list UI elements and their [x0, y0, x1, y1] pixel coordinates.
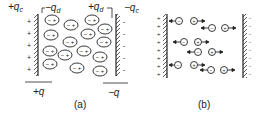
svg-text:+: +	[193, 62, 196, 68]
right-minus-charges: -----	[123, 18, 126, 73]
svg-text:− +: − +	[67, 22, 76, 28]
svg-text:-: -	[123, 42, 126, 49]
capacitor-diagram: +++++ ----- +qc −qd +qd −qc	[0, 0, 270, 116]
svg-text:+: +	[211, 49, 214, 55]
svg-text:-: -	[249, 71, 251, 77]
svg-text:+: +	[157, 47, 161, 53]
svg-text:-: -	[249, 39, 251, 45]
svg-text:-: -	[249, 15, 251, 21]
svg-text:+: +	[157, 63, 161, 69]
svg-text:− +: − +	[96, 54, 105, 60]
svg-text:+: +	[27, 66, 31, 73]
svg-text:+: +	[27, 18, 31, 25]
svg-text:+: +	[224, 25, 227, 31]
caption-a: (a)	[74, 99, 86, 110]
svg-text:+: +	[193, 18, 196, 24]
svg-text:−: −	[177, 62, 180, 68]
svg-text:+: +	[157, 39, 161, 45]
svg-text:+: +	[157, 15, 161, 21]
figure-b: ++++++++ -------- −+ −+ −+ −+ −+ −+	[157, 14, 251, 110]
svg-text:-: -	[123, 54, 126, 61]
label-minus-q: −q	[108, 87, 120, 98]
svg-text:− +: − +	[47, 32, 56, 38]
svg-text:− +: − +	[46, 61, 55, 67]
svg-text:-: -	[249, 55, 251, 61]
svg-text:-: -	[123, 18, 126, 25]
pointer-plus-qd	[107, 8, 112, 18]
svg-text:− +: − +	[96, 68, 105, 74]
label-minus-qd: −qd	[45, 2, 61, 14]
svg-text:-: -	[249, 31, 251, 37]
svg-text:−: −	[210, 67, 213, 73]
svg-text:− +: − +	[66, 39, 75, 45]
caption-b: (b)	[198, 99, 210, 110]
figure-a: +++++ ----- +qc −qd +qd −qc	[8, 1, 139, 110]
svg-text:− +: − +	[100, 39, 109, 45]
label-plus-q: +q	[33, 86, 45, 97]
svg-text:+: +	[223, 67, 226, 73]
svg-text:-: -	[249, 47, 251, 53]
b-left-plus: ++++++++	[157, 15, 161, 77]
svg-text:+: +	[157, 23, 161, 29]
svg-text:−: −	[197, 49, 200, 55]
svg-text:− +: − +	[84, 31, 93, 37]
svg-text:−: −	[178, 18, 181, 24]
svg-text:−: −	[183, 39, 186, 45]
svg-text:+: +	[157, 55, 161, 61]
svg-text:+: +	[27, 42, 31, 49]
left-plus-charges: +++++	[27, 18, 31, 73]
svg-text:− +: − +	[61, 52, 70, 58]
svg-text:-: -	[123, 30, 126, 37]
svg-text:-: -	[123, 66, 126, 73]
svg-text:− +: − +	[80, 48, 89, 54]
b-right-minus: --------	[249, 15, 251, 77]
svg-text:+: +	[197, 39, 200, 45]
svg-text:− +: − +	[88, 17, 97, 23]
label-plus-qd: +qd	[88, 1, 104, 13]
svg-text:−: −	[211, 25, 214, 31]
svg-text:+: +	[157, 31, 161, 37]
svg-text:− +: − +	[73, 65, 82, 71]
svg-text:− +: − +	[46, 48, 55, 54]
b-right-plate-hatch	[243, 14, 247, 78]
label-plus-qc: +qc	[8, 1, 23, 13]
label-minus-qc: −qc	[124, 2, 139, 14]
svg-text:-: -	[249, 63, 251, 69]
svg-text:− +: − +	[48, 17, 57, 23]
svg-text:+: +	[27, 54, 31, 61]
svg-text:− +: − +	[101, 26, 110, 32]
svg-text:+: +	[157, 71, 161, 77]
svg-text:-: -	[249, 23, 251, 29]
svg-text:+: +	[27, 30, 31, 37]
